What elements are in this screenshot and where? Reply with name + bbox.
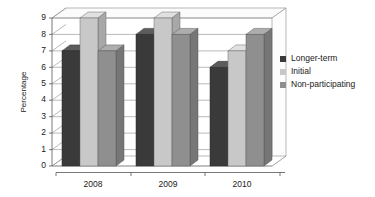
legend-item-non-participating[interactable]: Non-participating: [280, 78, 375, 91]
legend-label-non-participating: Non-participating: [291, 80, 355, 89]
bar-2008-non-participating: [98, 45, 124, 166]
legend-label-initial: Initial: [291, 67, 311, 76]
y-tick-3: 3: [41, 111, 46, 121]
legend-item-longer-term[interactable]: Longer-term: [280, 52, 375, 65]
bar-group-2009: [136, 12, 198, 166]
y-tick-labels: 9 8 7 6 5 4 3 2 1 0: [41, 12, 46, 170]
square-marker-icon: [280, 82, 286, 88]
x-tick-2010: 2010: [233, 179, 252, 189]
y-tick-9: 9: [41, 12, 46, 22]
y-tick-5: 5: [41, 78, 46, 88]
y-tick-0: 0: [41, 160, 46, 170]
chart-legend: Longer-term Initial Non-participating: [280, 52, 375, 91]
square-marker-icon: [280, 56, 286, 62]
bar-chart: 9 8 7 6 5 4 3 2 1 0 Percentage: [0, 0, 375, 197]
y-tick-4: 4: [41, 94, 46, 104]
legend-label-longer-term: Longer-term: [291, 54, 337, 63]
bar-2009-non-participating: [172, 28, 198, 166]
legend-item-initial[interactable]: Initial: [280, 65, 375, 78]
x-tick-labels: 2008 2009 2010: [84, 179, 252, 189]
x-tick-2009: 2009: [159, 179, 178, 189]
x-axis: [56, 173, 285, 177]
y-axis: [49, 18, 52, 166]
y-tick-6: 6: [41, 62, 46, 72]
y-axis-title: Percentage: [19, 71, 28, 112]
y-tick-2: 2: [41, 127, 46, 137]
square-marker-icon: [280, 69, 286, 75]
y-tick-8: 8: [41, 29, 46, 39]
y-tick-7: 7: [41, 45, 46, 55]
chart-canvas: 9 8 7 6 5 4 3 2 1 0 Percentage: [0, 0, 375, 197]
y-tick-1: 1: [41, 144, 46, 154]
x-tick-2008: 2008: [84, 179, 103, 189]
bar-2010-non-participating: [246, 28, 272, 166]
